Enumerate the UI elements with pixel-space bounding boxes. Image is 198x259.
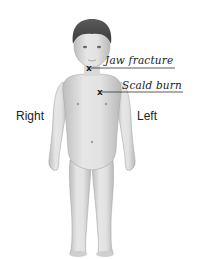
jaw-fracture-label: Jaw fracture — [105, 54, 173, 66]
right-side-label: Right — [16, 109, 44, 123]
legs — [69, 160, 114, 257]
child-body-figure: x x — [0, 0, 198, 259]
left-side-label: Left — [137, 109, 157, 123]
torso — [63, 74, 121, 170]
scald-burn-label: Scald burn — [122, 79, 182, 91]
